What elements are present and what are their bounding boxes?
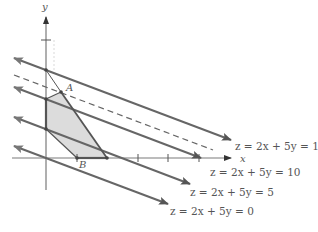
level-label-10: z = 2x + 5y = 10 [210, 166, 301, 178]
y-axis-label: y [41, 1, 48, 12]
x-axis-label: x [240, 153, 246, 164]
level-line-10 [14, 87, 201, 158]
level-label-15: z = 2x + 5y = 15 [235, 140, 318, 152]
point-b-label: B [78, 159, 86, 170]
level-label-0: z = 2x + 5y = 0 [170, 205, 254, 217]
linear-programming-diagram: y x A B z = 2x + 5y = 15 z = 2x + 5y = 1… [0, 0, 318, 232]
level-label-5: z = 2x + 5y = 5 [190, 186, 274, 198]
level-line-dashed [14, 75, 213, 150]
point-a-label: A [65, 82, 73, 93]
